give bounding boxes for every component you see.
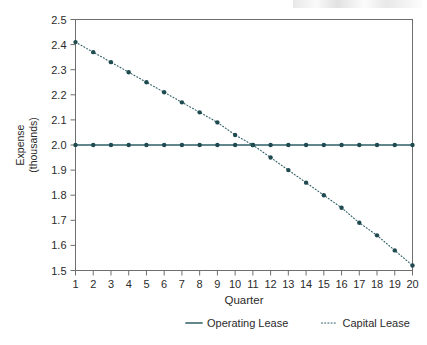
data-point [322, 193, 326, 197]
x-tick-label: 7 [179, 278, 185, 290]
data-point [375, 143, 379, 147]
data-point [410, 263, 414, 267]
data-point [304, 143, 308, 147]
data-point [393, 248, 397, 252]
legend-label-capital-lease: Capital Lease [343, 317, 410, 329]
x-tick-label: 9 [214, 278, 220, 290]
data-point [162, 143, 166, 147]
data-point [109, 60, 113, 64]
data-point [197, 110, 201, 114]
data-point [73, 143, 77, 147]
x-tick-label: 12 [264, 278, 276, 290]
series-line-capital-lease [76, 42, 413, 265]
y-axis: 2.52.42.32.22.12.01.91.81.71.61.5 [51, 14, 75, 277]
y-axis-title-line2: (thousands) [27, 117, 39, 172]
x-tick-label: 16 [335, 278, 347, 290]
y-axis-title-line1: Expense [14, 124, 26, 165]
x-tick-label: 3 [108, 278, 114, 290]
y-tick-label: 1.7 [51, 214, 66, 226]
x-tick-label: 13 [282, 278, 294, 290]
y-tick-label: 1.9 [51, 164, 66, 176]
y-tick-label: 1.5 [51, 265, 66, 277]
data-point [215, 120, 219, 124]
x-tick-label: 17 [353, 278, 365, 290]
data-point [73, 40, 77, 44]
data-point [162, 90, 166, 94]
x-tick-label: 10 [229, 278, 241, 290]
data-point [410, 143, 414, 147]
data-point [268, 155, 272, 159]
x-tick-label: 15 [318, 278, 330, 290]
x-axis-title: Quarter [225, 294, 264, 306]
x-tick-label: 18 [371, 278, 383, 290]
data-point [144, 80, 148, 84]
y-tick-label: 1.8 [51, 189, 66, 201]
x-tick-label: 8 [197, 278, 203, 290]
x-axis: 1234567891011121314151617181920 [72, 271, 418, 290]
y-axis-title: Expense (thousands) [14, 117, 39, 172]
data-point [197, 143, 201, 147]
x-tick-label: 19 [389, 278, 401, 290]
data-point [215, 143, 219, 147]
data-point [286, 168, 290, 172]
data-point [251, 143, 255, 147]
x-tick-label: 5 [143, 278, 149, 290]
x-tick-label: 20 [406, 278, 418, 290]
x-tick-label: 14 [300, 278, 312, 290]
y-tick-label: 2.1 [51, 114, 66, 126]
x-tick-label: 6 [161, 278, 167, 290]
x-tick-label: 2 [90, 278, 96, 290]
data-point [339, 143, 343, 147]
data-point [233, 133, 237, 137]
data-point [127, 143, 131, 147]
data-point [91, 143, 95, 147]
data-point [357, 221, 361, 225]
y-tick-label: 2.2 [51, 89, 66, 101]
data-series-group [73, 40, 414, 268]
data-point [304, 180, 308, 184]
y-tick-label: 2.4 [51, 39, 66, 51]
data-point [180, 143, 184, 147]
data-point [127, 70, 131, 74]
data-point [180, 100, 184, 104]
data-point [357, 143, 361, 147]
y-tick-label: 2.5 [51, 14, 66, 26]
data-point [339, 206, 343, 210]
y-tick-label: 2.3 [51, 64, 66, 76]
x-tick-label: 4 [126, 278, 132, 290]
data-point [144, 143, 148, 147]
data-point [375, 233, 379, 237]
data-point [109, 143, 113, 147]
y-tick-label: 1.6 [51, 239, 66, 251]
data-point [268, 143, 272, 147]
line-chart: 2.52.42.32.22.12.01.91.81.71.61.5 123456… [0, 0, 427, 345]
x-tick-label: 11 [247, 278, 258, 290]
data-point [233, 143, 237, 147]
chart-legend: Operating LeaseCapital Lease [186, 317, 410, 329]
y-tick-label: 2.0 [51, 139, 66, 151]
x-tick-label: 1 [72, 278, 78, 290]
data-point [393, 143, 397, 147]
chart-figure: 2.52.42.32.22.12.01.91.81.71.61.5 123456… [0, 0, 427, 345]
legend-label-operating-lease: Operating Lease [207, 317, 288, 329]
data-point [286, 143, 290, 147]
data-point [322, 143, 326, 147]
data-point [91, 50, 95, 54]
